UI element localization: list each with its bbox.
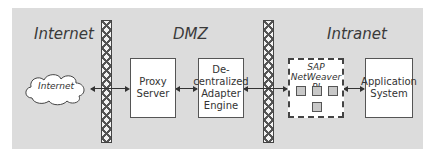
zone-label-internet: Internet	[34, 25, 94, 43]
proxy-label-1: Proxy	[139, 76, 166, 87]
pi-component-icon	[296, 86, 306, 96]
dae-label-3: Adapter	[201, 88, 241, 99]
firewall-inner	[263, 20, 274, 143]
dae-label-1: De-	[212, 64, 229, 75]
dae-label-4: Engine	[204, 100, 238, 111]
zone-label-dmz: DMZ	[173, 25, 208, 43]
dae-label-2: centralized	[193, 76, 248, 87]
arrowhead-left-icon	[90, 86, 95, 92]
application-system-box: ApplicationSystem	[365, 58, 413, 118]
app-label-2: System	[370, 88, 407, 99]
connector-dae-pi	[244, 88, 287, 89]
pi-component-icon	[328, 86, 338, 96]
decentralized-adapter-engine-box: De-centralizedAdapterEngine	[198, 58, 244, 118]
pi-component-icon	[312, 102, 322, 112]
sap-netweaver-pi-box: SAP NetWeaver PI	[288, 58, 344, 118]
firewall-outer	[101, 20, 112, 143]
pi-label-1: SAP	[307, 62, 324, 72]
pi-component-icon	[312, 86, 322, 96]
cloud-label: Internet	[22, 81, 90, 91]
proxy-label-2: Server	[137, 88, 170, 99]
connector-cloud-proxy	[91, 88, 125, 89]
app-label-1: Application	[361, 76, 417, 87]
zone-label-intranet: Intranet	[327, 25, 387, 43]
proxy-server-box: ProxyServer	[130, 58, 176, 118]
